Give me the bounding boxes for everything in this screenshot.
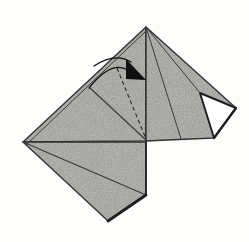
origami-step-svg bbox=[0, 0, 249, 242]
origami-diagram bbox=[0, 0, 249, 242]
